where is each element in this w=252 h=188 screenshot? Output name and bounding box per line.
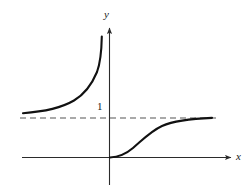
y-tick-label-one: 1 [97,101,103,112]
graph-figure: y x 1 [0,0,252,188]
curve-branch-left [23,37,102,114]
curve-branch-right [110,118,212,158]
x-axis-label: x [236,151,241,162]
plot-canvas [0,0,252,188]
y-axis-label: y [104,9,109,20]
